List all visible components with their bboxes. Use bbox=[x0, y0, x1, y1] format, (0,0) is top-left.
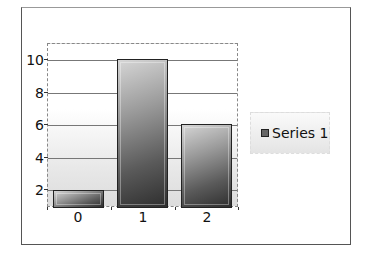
bar-2[interactable] bbox=[181, 124, 232, 208]
x-tick-label: 0 bbox=[68, 209, 88, 225]
x-tick-mark bbox=[111, 207, 112, 210]
legend-label: Series 1 bbox=[272, 125, 328, 141]
bar-0[interactable] bbox=[53, 190, 104, 208]
x-tick-mark bbox=[47, 207, 48, 210]
y-tick-mark bbox=[44, 59, 48, 60]
x-tick-mark bbox=[175, 207, 176, 210]
y-tick-label: 4 bbox=[24, 151, 44, 165]
y-tick-label: 6 bbox=[24, 118, 44, 132]
x-tick-label: 1 bbox=[133, 209, 153, 225]
legend: Series 1 bbox=[250, 112, 330, 154]
y-tick-mark bbox=[44, 124, 48, 125]
y-tick-label: 10 bbox=[24, 53, 44, 67]
x-tick-label: 2 bbox=[197, 209, 217, 225]
y-tick-mark bbox=[44, 92, 48, 93]
bar-1[interactable] bbox=[117, 59, 168, 208]
x-tick-mark bbox=[238, 207, 239, 210]
y-tick-label: 2 bbox=[24, 183, 44, 197]
y-tick-mark bbox=[44, 157, 48, 158]
y-tick-mark bbox=[44, 189, 48, 190]
legend-swatch-icon bbox=[261, 129, 269, 137]
y-tick-label: 8 bbox=[24, 86, 44, 100]
